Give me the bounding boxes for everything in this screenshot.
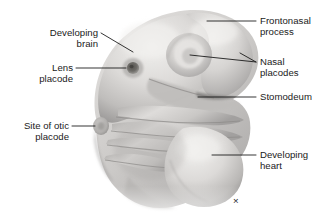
- label-site-of-otic-placode-line2: placode: [35, 131, 69, 142]
- embryo-illustration: × Developing brain Lens placode Site of …: [0, 0, 326, 220]
- otic-placode-pit: [97, 122, 104, 130]
- lens-placode-center: [130, 65, 134, 69]
- label-developing-brain-line2: brain: [77, 38, 98, 49]
- label-frontonasal-process-line2: process: [260, 26, 294, 37]
- label-site-of-otic-placode-line1: Site of otic: [24, 120, 69, 131]
- label-developing-brain-line1: Developing: [50, 27, 98, 38]
- label-lens-placode-line2: placode: [39, 73, 73, 84]
- label-frontonasal-process-line1: Frontonasal: [260, 15, 311, 26]
- label-lens-placode-line1: Lens: [52, 62, 73, 73]
- artist-mark: ×: [233, 195, 239, 206]
- label-developing-heart-line1: Developing: [260, 149, 308, 160]
- under-chin-shadow: [114, 120, 186, 180]
- label-developing-heart-line2: heart: [260, 160, 282, 171]
- figure-container: × Developing brain Lens placode Site of …: [0, 0, 326, 220]
- label-stomodeum: Stomodeum: [260, 91, 312, 102]
- lens-placode: [127, 62, 139, 74]
- label-nasal-placodes-line1: Nasal: [260, 56, 285, 67]
- label-nasal-placodes-line2: placodes: [260, 67, 299, 78]
